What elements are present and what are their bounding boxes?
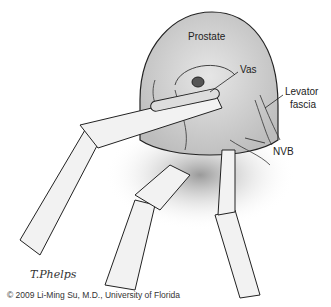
label-nvb: NVB xyxy=(273,146,294,157)
illustration: Prostate Vas Levator fascia NVB T.Phelps… xyxy=(0,0,331,307)
label-levator: Levator xyxy=(285,86,318,97)
artist-signature: T.Phelps xyxy=(30,268,76,281)
label-vas: Vas xyxy=(240,64,257,75)
copyright-credit: © 2009 Li-Ming Su, M.D., University of F… xyxy=(7,290,180,300)
label-prostate: Prostate xyxy=(188,31,225,42)
label-fascia: fascia xyxy=(290,99,316,110)
vas-structure xyxy=(192,77,204,87)
